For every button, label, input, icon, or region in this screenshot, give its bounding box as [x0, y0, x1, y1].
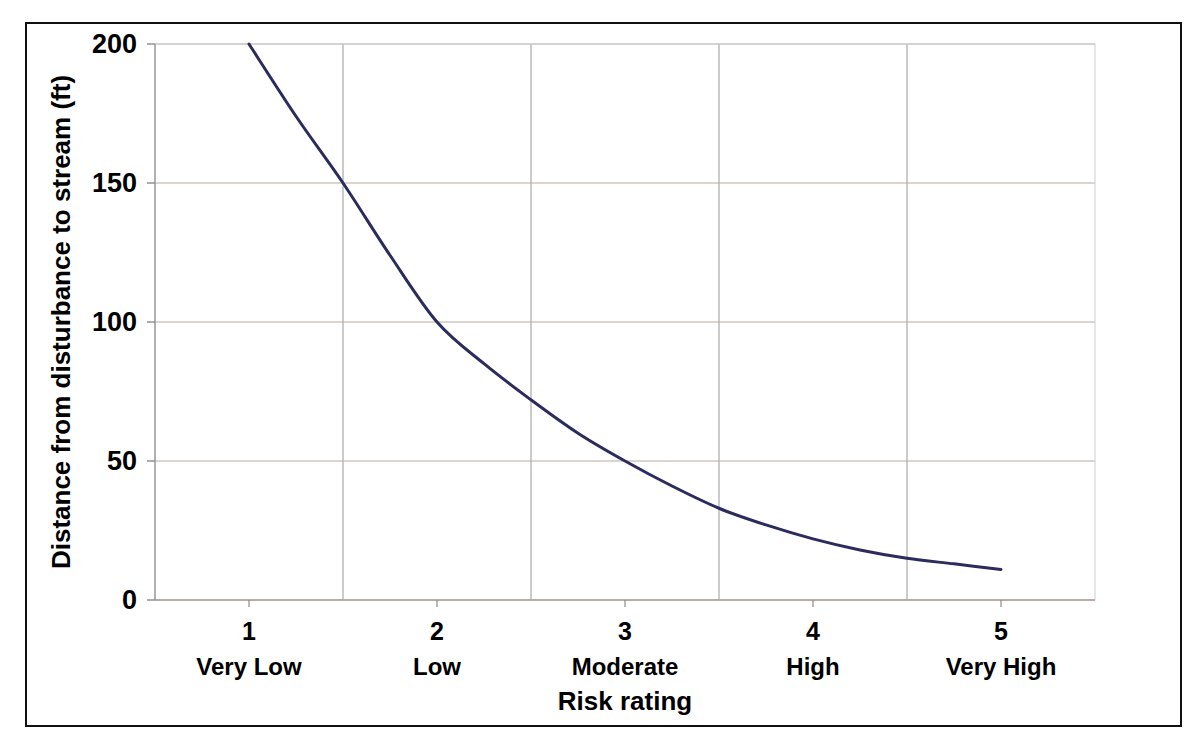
figure-border — [25, 22, 1182, 727]
figure-container: 050100150200 12345 Very LowLowModerateHi… — [0, 0, 1200, 748]
